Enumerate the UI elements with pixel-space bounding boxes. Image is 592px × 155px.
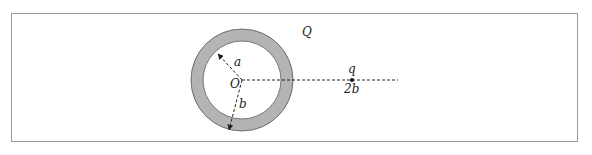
label-2b: 2b [343, 82, 359, 96]
label-Q: Q [302, 25, 312, 39]
label-q: q [348, 62, 356, 76]
label-a: a [234, 55, 241, 69]
shell-diagram: Q a O b q 2b [0, 0, 592, 155]
label-O: O [230, 77, 240, 91]
label-b: b [239, 97, 247, 111]
